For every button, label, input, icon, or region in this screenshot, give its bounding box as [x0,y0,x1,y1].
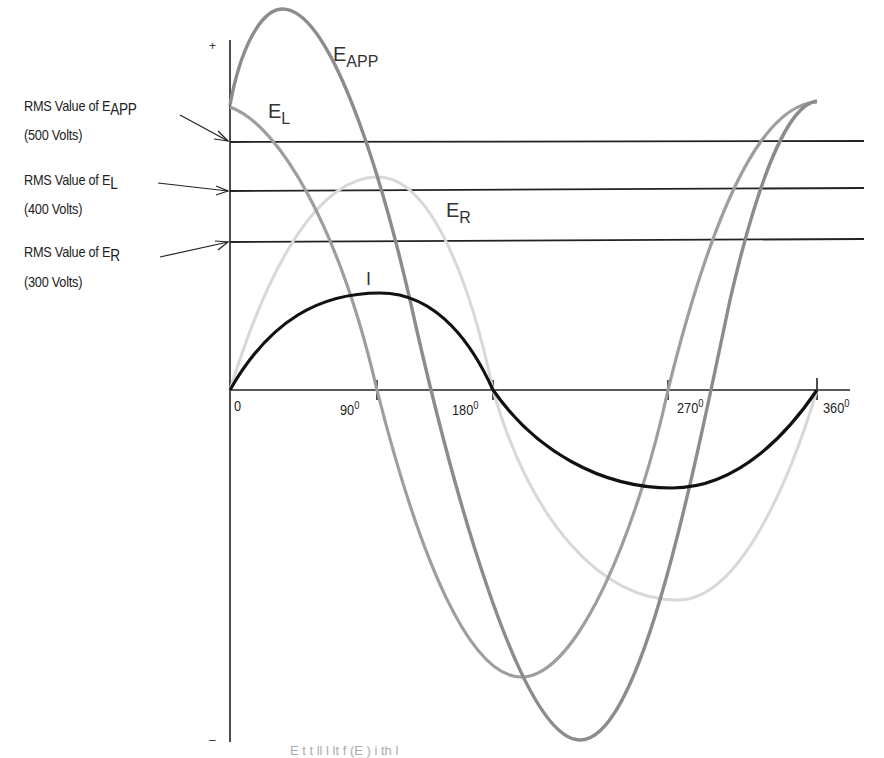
figure-caption: E t t ll l lt f (E ) i th l [290,744,398,757]
rms-value-e-l: (400 Volts) [24,201,82,216]
rms-value-e-r: (300 Volts) [24,274,82,289]
curve-label-i: I [366,270,371,288]
axis-ticks [377,378,817,400]
curve-label-e-r: ER [446,200,471,220]
curve-label-e-app: EAPP [333,44,378,64]
positive-sign: + [209,40,216,52]
curve-e-app [230,9,817,740]
tick-label-360: 3600 [823,398,849,415]
rms-label-e-l: RMS Value of EL [24,172,118,188]
tick-label-0: 0 [234,398,241,413]
rms-line-e-app [230,141,864,142]
rms-line-e-r [230,239,864,242]
rms-value-e-app: (500 Volts) [24,127,82,142]
negative-sign: – [209,734,216,746]
rms-line-e-l [230,188,864,191]
rms-label-e-r: RMS Value of ER [24,244,120,260]
rms-arrows [158,115,228,257]
tick-label-180: 1800 [452,400,478,417]
rms-label-e-app: RMS Value of EAPP [24,98,137,114]
tick-label-270: 2700 [677,398,703,415]
curve-label-e-l: EL [268,101,290,121]
tick-label-90: 900 [340,400,359,417]
